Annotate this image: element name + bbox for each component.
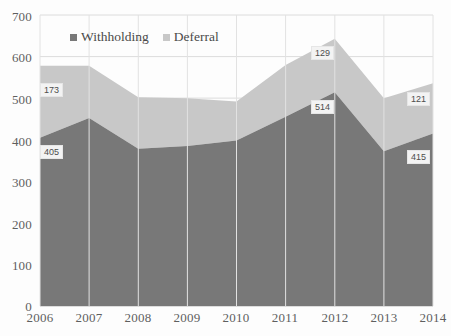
legend-label-withholding: Withholding (81, 29, 149, 45)
legend-item-withholding[interactable]: Withholding (70, 29, 149, 45)
x-axis-tick-2010: 2010 (212, 310, 260, 326)
data-label-deferral-2006: 173 (40, 83, 63, 97)
x-axis-tick-2006: 2006 (16, 310, 64, 326)
legend-swatch-deferral (163, 34, 170, 41)
data-label-deferral-2014: 121 (407, 92, 430, 106)
legend-item-deferral[interactable]: Deferral (163, 29, 219, 45)
x-axis-tick-2013: 2013 (360, 310, 408, 326)
data-label-deferral-2012: 129 (311, 46, 334, 60)
x-axis-tick-2008: 2008 (114, 310, 162, 326)
data-label-withholding-2014: 415 (407, 150, 430, 164)
x-axis-tick-2014: 2014 (409, 310, 451, 326)
x-axis-tick-2012: 2012 (311, 310, 359, 326)
data-label-withholding-2012: 514 (311, 100, 334, 114)
x-axis-tick-2007: 2007 (65, 310, 113, 326)
legend-swatch-withholding (70, 34, 77, 41)
data-label-withholding-2006: 405 (40, 145, 63, 159)
x-axis-tick-2009: 2009 (163, 310, 211, 326)
chart-legend: Withholding Deferral (70, 29, 219, 45)
x-axis-tick-2011: 2011 (261, 310, 309, 326)
legend-label-deferral: Deferral (174, 29, 219, 45)
